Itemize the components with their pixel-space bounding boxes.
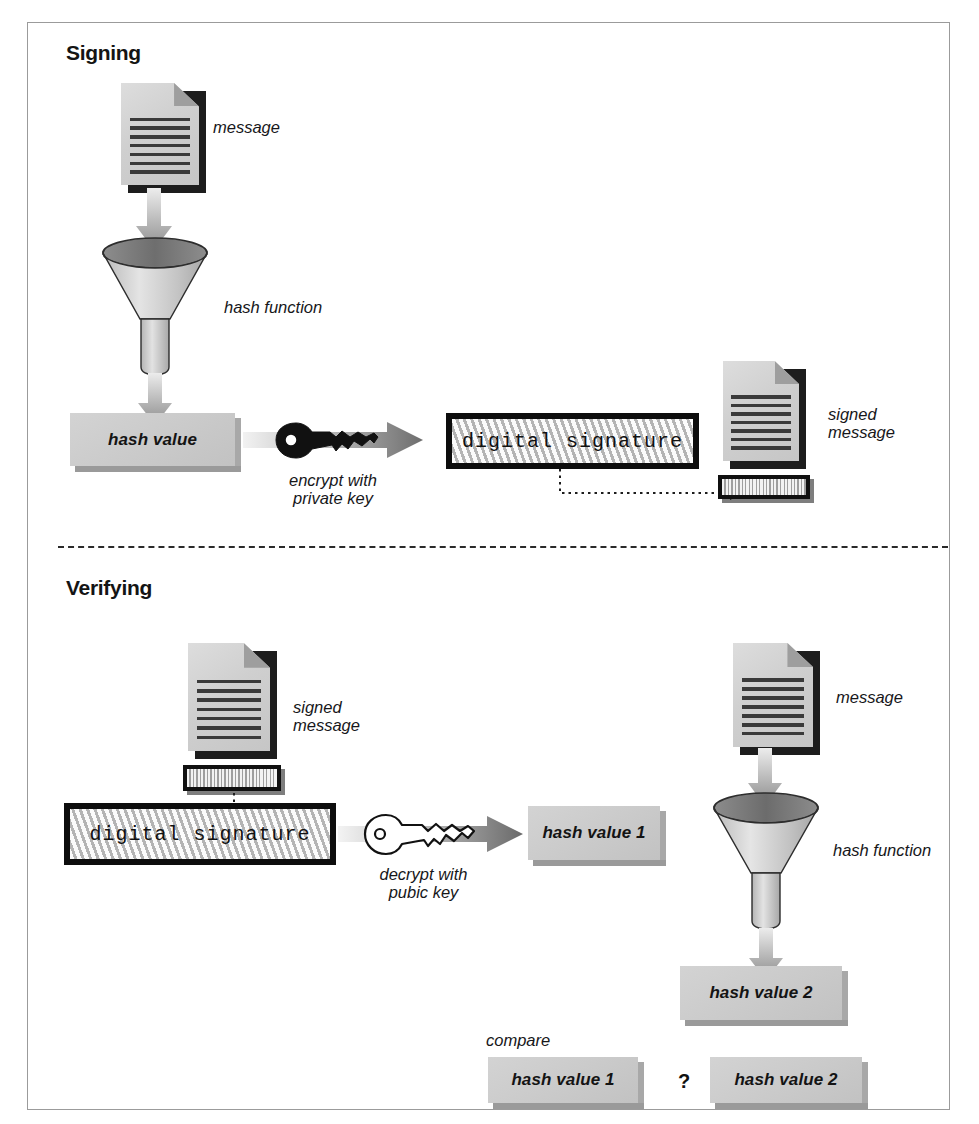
box-compare-hash-value-1: hash value 1 — [488, 1057, 638, 1103]
box-label: digital signature — [462, 430, 683, 453]
signature-strip — [183, 765, 281, 791]
funnel-icon — [100, 235, 210, 377]
section-title-signing: Signing — [66, 41, 141, 65]
document-icon — [121, 83, 199, 185]
document-lines — [731, 395, 790, 450]
figure-frame: Signing message — [27, 22, 950, 1110]
box-digital-signature-verifying: digital signature — [64, 803, 336, 865]
label-signed-message-signing: signed message — [828, 405, 895, 442]
box-hash-value-2: hash value 2 — [680, 966, 842, 1020]
box-label: digital signature — [89, 823, 310, 846]
label-compare: compare — [486, 1031, 550, 1049]
box-label: hash value 1 — [511, 1070, 614, 1090]
box-label: hash value 2 — [709, 983, 812, 1003]
section-divider — [58, 546, 948, 548]
label-signed-message-verifying: signed message — [293, 698, 360, 735]
box-compare-hash-value-2: hash value 2 — [710, 1057, 862, 1103]
compare-operator: ? — [678, 1070, 690, 1093]
key-icon — [270, 419, 380, 463]
caption-decrypt-public-key: decrypt with pubic key — [346, 865, 501, 902]
box-label: hash value 1 — [542, 823, 645, 843]
document-icon — [723, 361, 799, 461]
key-icon — [358, 811, 478, 859]
funnel-icon — [711, 791, 821, 931]
box-label: hash value 2 — [734, 1070, 837, 1090]
label-hash-function-signing: hash function — [224, 298, 322, 316]
signature-strip — [718, 475, 810, 499]
document-lines — [742, 678, 804, 735]
section-title-verifying: Verifying — [66, 576, 152, 600]
box-hash-value-1: hash value 1 — [528, 806, 660, 860]
label-message-signing: message — [213, 118, 280, 136]
caption-encrypt-private-key: encrypt with private key — [258, 471, 408, 508]
label-message-verifying: message — [836, 688, 903, 706]
box-hash-value-signing: hash value — [70, 413, 235, 466]
box-digital-signature-signing: digital signature — [446, 413, 699, 469]
document-lines — [197, 680, 261, 739]
label-hash-function-verifying: hash function — [833, 841, 931, 859]
document-lines — [130, 118, 191, 174]
document-icon — [188, 643, 270, 751]
document-icon — [733, 643, 813, 747]
box-label: hash value — [108, 430, 197, 450]
